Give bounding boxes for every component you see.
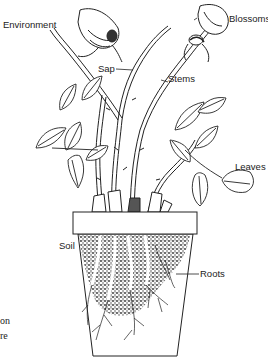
label-environment: Environment (3, 20, 56, 30)
plant-diagram: Environment Blossoms Sap Stems Leaves So… (0, 0, 268, 363)
pot-drawing (73, 212, 197, 356)
label-stems: Stems (168, 74, 195, 84)
label-soil: Soil (59, 241, 75, 251)
label-blossoms: Blossoms (229, 14, 268, 24)
label-roots: Roots (200, 269, 225, 279)
cropped-text-line1: on (0, 316, 10, 326)
blossoms-drawing (78, 5, 228, 63)
label-leaves: Leaves (235, 162, 266, 172)
label-sap: Sap (98, 64, 115, 74)
base-drawing (92, 190, 172, 212)
sap-leader (116, 69, 133, 70)
leaves-drawing (36, 76, 253, 206)
cropped-text-line2: re (0, 331, 8, 341)
plant-illustration (0, 0, 268, 363)
blossoms-leader (194, 18, 197, 20)
